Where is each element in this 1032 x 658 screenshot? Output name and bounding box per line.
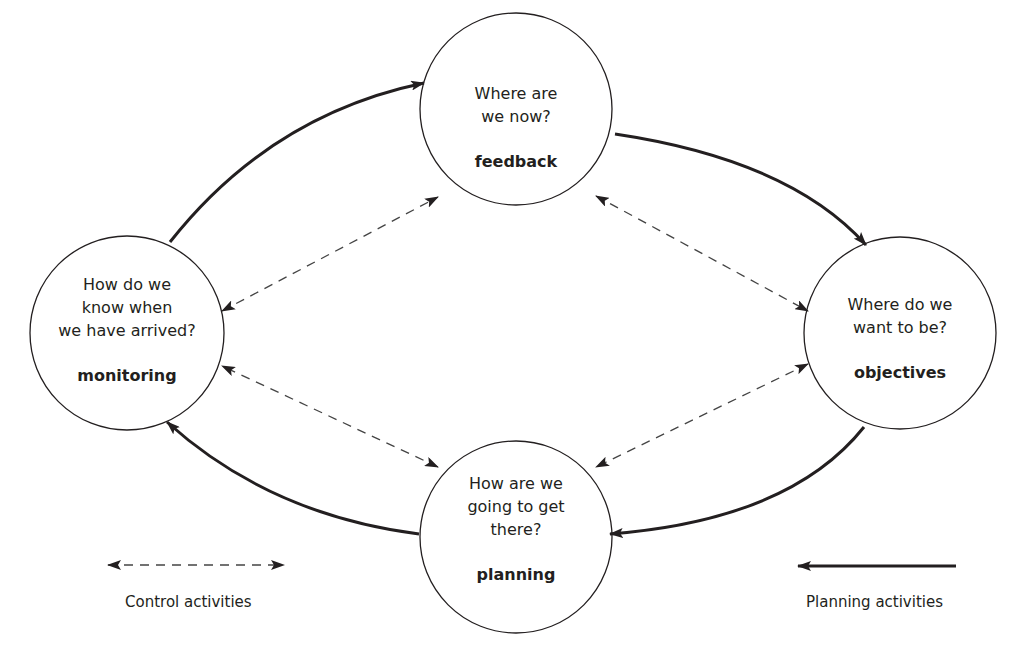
planning-question-line-1: How are we	[431, 472, 601, 495]
feedback-question-line-1: Where are	[436, 82, 596, 105]
monitoring-label: monitoring	[32, 364, 222, 387]
feedback-label: feedback	[436, 150, 596, 173]
objectives-question-line-1: Where do we	[810, 293, 990, 316]
objectives-question-line-2: want to be?	[810, 316, 990, 339]
feedback-question-line-2: we now?	[436, 105, 596, 128]
control-monitoring-feedback	[222, 197, 438, 311]
arrow-feedback-to-objectives	[615, 134, 866, 245]
objectives-label: objectives	[810, 361, 990, 384]
planning-label: planning	[431, 563, 601, 586]
objectives-text: Where do we want to be? objectives	[810, 293, 990, 384]
planning-question-line-3: there?	[431, 518, 601, 541]
arrow-monitoring-to-feedback	[170, 83, 424, 242]
monitoring-question-line-2: know when	[32, 296, 222, 319]
arrow-objectives-to-planning	[610, 427, 864, 534]
monitoring-text: How do we know when we have arrived? mon…	[32, 273, 222, 387]
control-feedback-objectives	[596, 196, 808, 311]
planning-question-line-2: going to get	[431, 495, 601, 518]
monitoring-question-line-3: we have arrived?	[32, 319, 222, 342]
control-objectives-planning	[596, 364, 808, 467]
feedback-text: Where are we now? feedback	[436, 82, 596, 173]
planning-text: How are we going to get there? planning	[431, 472, 601, 586]
arrow-planning-to-monitoring	[167, 422, 419, 534]
legend-control-label: Control activities	[125, 593, 252, 611]
legend-planning-label: Planning activities	[806, 593, 943, 611]
control-planning-monitoring	[222, 366, 438, 467]
monitoring-question-line-1: How do we	[32, 273, 222, 296]
